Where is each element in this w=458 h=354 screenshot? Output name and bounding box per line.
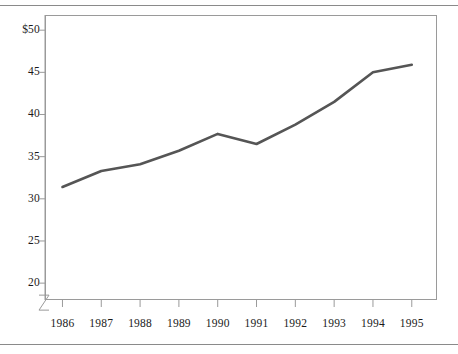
- y-axis-break-symbol: [39, 295, 49, 310]
- y-axis-ticks: [39, 15, 45, 300]
- axis-break-zigzag: [39, 295, 49, 310]
- chart-figure: $50454035302520 198619871988198919901991…: [0, 0, 458, 354]
- x-axis-ticks: [62, 300, 411, 307]
- chart-canvas: [0, 0, 458, 354]
- data-series-line: [62, 65, 411, 187]
